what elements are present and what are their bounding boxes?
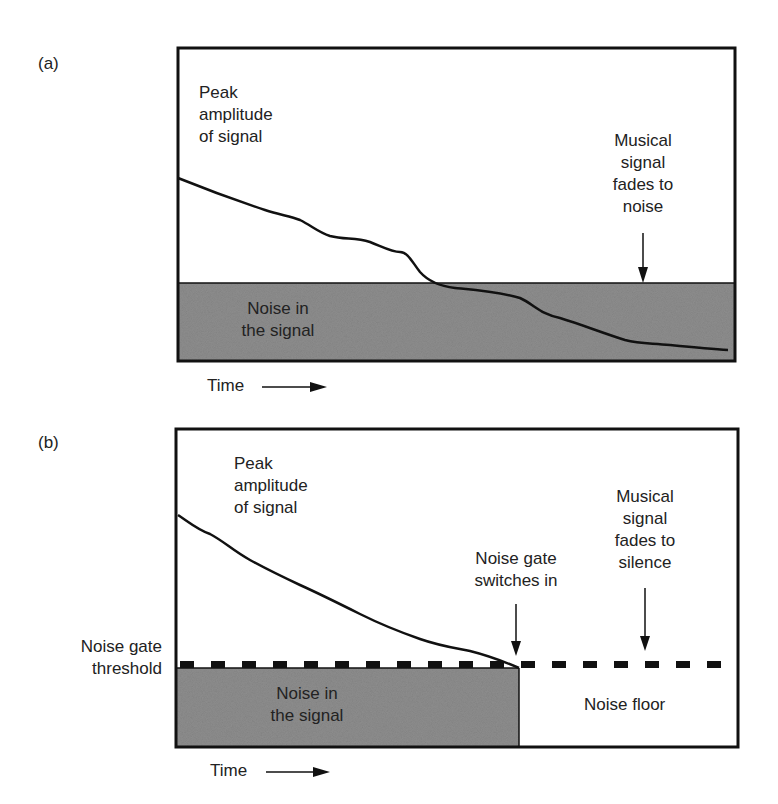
arrowhead-icon xyxy=(310,382,327,392)
diagram-canvas xyxy=(0,0,778,804)
arrowhead-icon xyxy=(640,636,650,651)
time-label-b: Time xyxy=(210,761,247,781)
time-label-a: Time xyxy=(207,376,244,396)
noise-in-signal-label-a: Noise in the signal xyxy=(228,298,328,342)
threshold-dashed-line xyxy=(180,661,721,668)
arrowhead-icon xyxy=(313,767,330,777)
fade-to-noise-label: Musical signal fades to noise xyxy=(593,130,693,218)
peak-amplitude-label-a: Peak amplitude of signal xyxy=(199,82,273,148)
arrowhead-icon xyxy=(511,641,521,656)
panel-a-label: (a) xyxy=(38,53,59,75)
noise-in-signal-label-b: Noise in the signal xyxy=(257,683,357,727)
fade-to-silence-label: Musical signal fades to silence xyxy=(595,486,695,574)
panel-b-label: (b) xyxy=(38,432,59,454)
noise-floor-label: Noise floor xyxy=(584,694,665,716)
gate-switches-in-label: Noise gate switches in xyxy=(456,548,576,592)
peak-amplitude-label-b: Peak amplitude of signal xyxy=(234,453,308,519)
arrowhead-icon xyxy=(638,267,648,283)
threshold-label: Noise gate threshold xyxy=(20,636,162,680)
